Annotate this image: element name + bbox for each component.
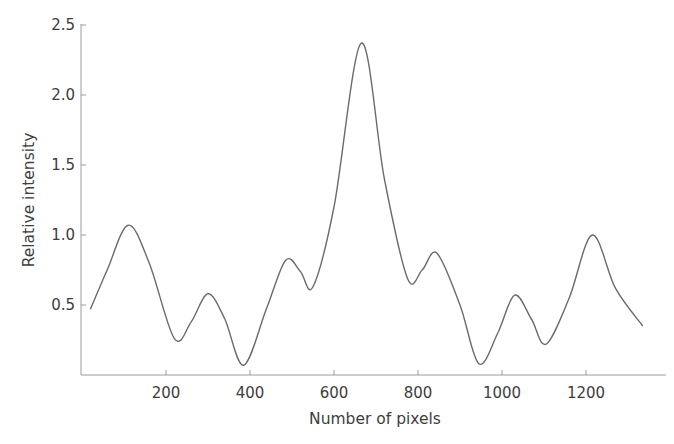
x-tick-label: 600 (320, 384, 349, 402)
y-tick-label: 1.0 (51, 226, 75, 244)
y-tick-label: 2.0 (51, 86, 75, 104)
line-chart: 0.51.01.52.02.5 20040060080010001200 Num… (0, 0, 674, 444)
x-tick-label: 800 (404, 384, 433, 402)
x-axis-title: Number of pixels (309, 410, 441, 428)
y-axis-title: Relative intensity (20, 133, 38, 268)
intensity-curve (90, 43, 642, 365)
x-tick-label: 1200 (567, 384, 605, 402)
x-tick-label: 200 (152, 384, 181, 402)
x-tick-label: 400 (236, 384, 265, 402)
x-tick-label: 1000 (483, 384, 521, 402)
y-tick-label: 2.5 (51, 16, 75, 34)
y-tick-label: 1.5 (51, 156, 75, 174)
axes (81, 24, 666, 375)
y-tick-label: 0.5 (51, 296, 75, 314)
